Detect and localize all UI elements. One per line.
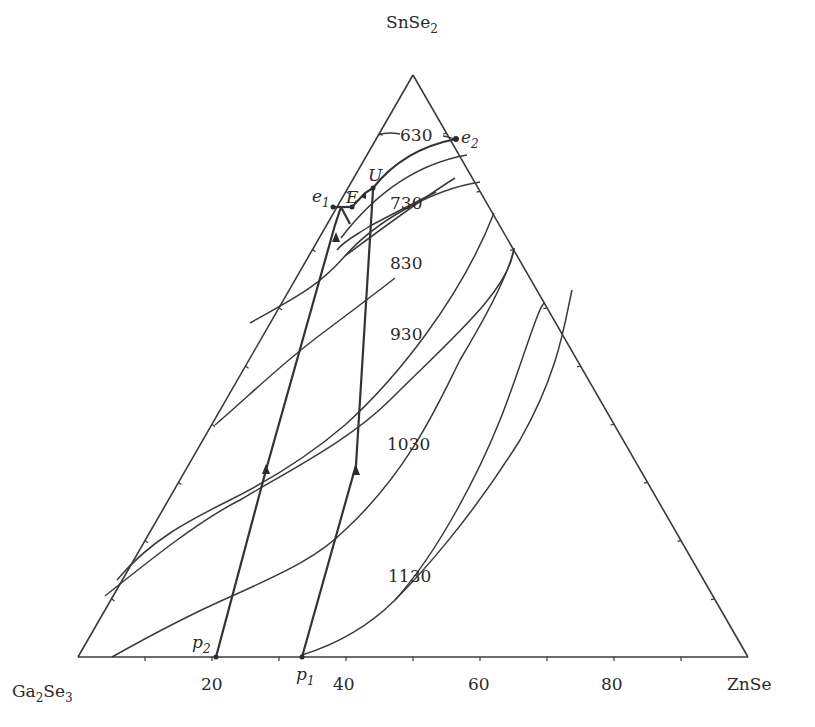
isotherm-label-830: 830 <box>390 253 422 273</box>
point-label-e1: e1 <box>312 186 330 210</box>
point-p1 <box>300 655 305 660</box>
isotherm-1130-liquidus <box>302 303 545 655</box>
point-p2 <box>214 655 219 660</box>
arrow-p1-line <box>352 465 360 475</box>
arrow-p2-line <box>262 464 270 474</box>
vertex-label-snse2: SnSe2 <box>386 12 438 36</box>
line-E-spur <box>341 207 350 224</box>
tick-label-20: 20 <box>201 674 223 694</box>
line-U-to-e2 <box>373 139 456 188</box>
isotherm-930-upper <box>345 178 455 256</box>
isotherm-label-1130: 1130 <box>388 566 431 586</box>
tick-label-40: 40 <box>333 674 355 694</box>
point-label-U: U <box>368 165 383 185</box>
isotherm-930 <box>117 213 494 580</box>
left-ticks <box>112 133 383 601</box>
ternary-phase-diagram: SnSe2 Ga2Se3 ZnSe 20 40 60 80 630 730 83… <box>0 0 815 727</box>
point-label-e2: e2 <box>461 127 479 151</box>
isotherm-1030 <box>105 248 514 596</box>
tick-label-80: 80 <box>601 674 623 694</box>
isotherm-label-930: 930 <box>390 324 422 344</box>
point-e2 <box>453 136 459 142</box>
point-label-p2: p2 <box>192 632 211 656</box>
line-p2-to-E <box>216 207 341 657</box>
point-e1 <box>331 205 336 210</box>
tick-label-60: 60 <box>468 674 490 694</box>
isotherm-label-630: 630 <box>400 125 432 145</box>
isotherm-label-730: 730 <box>390 193 422 213</box>
isotherm-1130 <box>112 248 514 657</box>
point-U <box>371 186 376 191</box>
isotherm-label-1030: 1030 <box>387 434 430 454</box>
vertex-label-ga2se3: Ga2Se3 <box>12 681 73 705</box>
point-label-p1: p1 <box>296 664 315 688</box>
vertex-label-znse: ZnSe <box>727 674 771 694</box>
point-label-E: E <box>345 187 359 207</box>
